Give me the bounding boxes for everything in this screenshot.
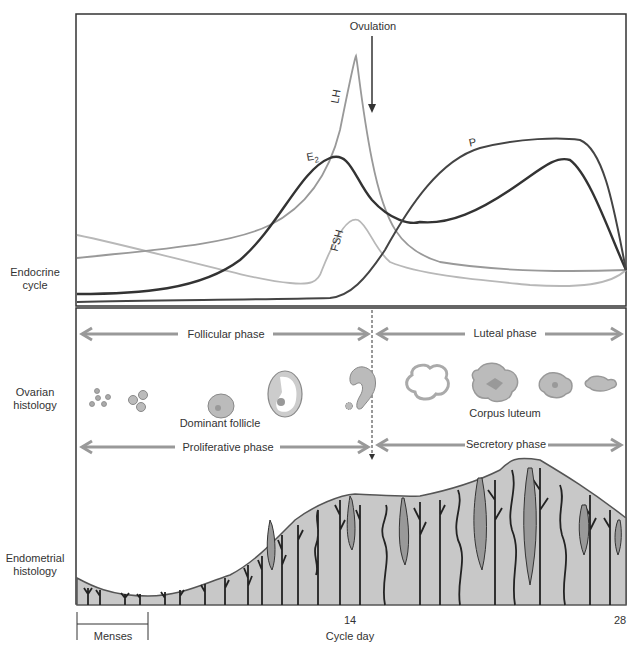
fsh-curve xyxy=(77,220,626,287)
ovulation-dashed-arrow-head xyxy=(369,454,375,460)
ovarian-histology-label: Ovarian histology xyxy=(0,386,70,412)
follicular-phase-label: Follicular phase xyxy=(180,328,272,341)
lh-curve xyxy=(77,56,626,271)
label-line: histology xyxy=(0,565,70,578)
endocrine-panel-frame xyxy=(76,14,626,306)
label-line: Ovarian xyxy=(0,386,70,399)
tick-28-label: 28 xyxy=(605,614,635,627)
e2-curve xyxy=(77,157,626,294)
graafian-follicle-icon xyxy=(268,371,302,417)
tick-14-label: 14 xyxy=(335,614,365,627)
proliferative-phase-label: Proliferative phase xyxy=(176,441,280,454)
label-line: Endometrial xyxy=(0,552,70,565)
luteal-phase-label: Luteal phase xyxy=(465,327,545,340)
primary-follicles xyxy=(129,391,148,412)
ovulating-follicle-icon xyxy=(346,367,376,410)
secretory-phase-label: Secretory phase xyxy=(464,438,548,451)
cycle-day-label: Cycle day xyxy=(320,630,380,643)
ovulation-label: Ovulation xyxy=(345,20,401,33)
primordial-follicles xyxy=(90,389,111,407)
endocrine-cycle-label: Endocrine cycle xyxy=(0,266,70,292)
endometrium xyxy=(77,458,626,605)
corpus-luteum-label: Corpus luteum xyxy=(465,407,545,420)
corpus-luteum-icons xyxy=(407,363,617,401)
dominant-follicle-icon xyxy=(208,394,234,418)
label-line: cycle xyxy=(0,279,70,292)
label-line: histology xyxy=(0,399,70,412)
endometrial-histology-label: Endometrial histology xyxy=(0,552,70,578)
menses-label: Menses xyxy=(80,630,146,643)
dominant-follicle-label: Dominant follicle xyxy=(170,417,270,430)
ovulation-arrow-head xyxy=(368,104,376,113)
label-line: Endocrine xyxy=(0,266,70,279)
menstrual-cycle-diagram xyxy=(0,0,643,655)
lh-label: LH xyxy=(328,88,343,104)
